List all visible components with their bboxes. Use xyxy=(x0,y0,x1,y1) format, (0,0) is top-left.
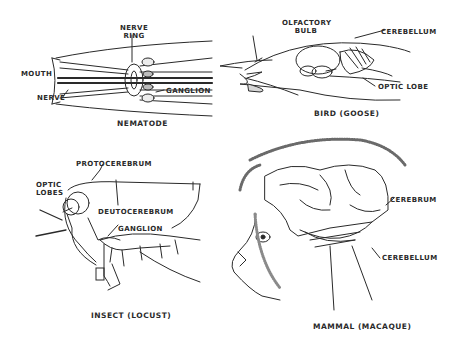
label-nerve: NERVE xyxy=(37,94,65,102)
label-ganglion-insect: GANGLION xyxy=(118,225,163,233)
label-cerebellum-bird: CEREBELLUM xyxy=(381,28,437,36)
label-nerve-ring-line2: RING xyxy=(118,32,150,40)
label-cerebellum-mammal: CEREBELLUM xyxy=(382,254,438,262)
label-olfactory-line2: BULB xyxy=(282,27,330,35)
label-ganglion-nematode: GANGLION xyxy=(166,87,211,95)
label-optic-lobes-line1: OPTIC xyxy=(36,181,63,189)
label-cerebrum: CEREBRUM xyxy=(390,196,437,204)
label-optic-lobes-line2: LOBES xyxy=(36,189,63,197)
label-deutocerebrum: DEUTOCEREBRUM xyxy=(98,208,174,216)
label-nerve-ring-line1: NERVE xyxy=(118,24,150,32)
caption-insect: INSECT (LOCUST) xyxy=(91,311,171,320)
label-olfactory-bulb: OLFACTORY BULB xyxy=(282,19,330,35)
diagram-illustrations xyxy=(0,0,451,362)
label-mouth: MOUTH xyxy=(21,70,52,78)
label-optic-lobes: OPTIC LOBES xyxy=(36,181,63,197)
label-optic-lobe: OPTIC LOBE xyxy=(378,83,428,91)
macaque-drawing xyxy=(232,139,405,310)
nematode-drawing xyxy=(52,35,212,116)
caption-bird: BIRD (GOOSE) xyxy=(314,109,379,118)
caption-nematode: NEMATODE xyxy=(117,119,168,128)
caption-mammal: MAMMAL (MACAQUE) xyxy=(313,322,411,331)
label-nerve-ring: NERVE RING xyxy=(118,24,150,40)
label-olfactory-line1: OLFACTORY xyxy=(282,19,330,27)
label-protocerebrum: PROTOCEREBRUM xyxy=(76,160,152,168)
